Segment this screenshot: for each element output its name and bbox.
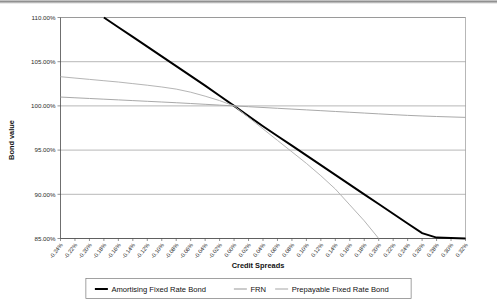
y-tick-label: 105.00%	[31, 58, 56, 65]
x-tick-label: 0.16%	[339, 242, 354, 258]
x-tick-labels: -0.24%-0.22%-0.20%-0.18%-0.16%-0.14%-0.1…	[48, 242, 469, 260]
x-tick-label: -0.14%	[121, 242, 137, 260]
y-tick-label: 100.00%	[31, 102, 56, 109]
x-tick-label: 0.22%	[382, 242, 397, 258]
chart-canvas: 85.00%90.00%95.00%100.00%105.00%110.00% …	[0, 0, 497, 304]
x-tick-label: -0.08%	[164, 242, 180, 260]
x-tick-label: 0.14%	[324, 242, 339, 258]
x-tick-label: -0.02%	[207, 242, 223, 260]
series-line	[104, 18, 466, 239]
x-tick-label: 0.20%	[368, 242, 383, 258]
x-tick-label: -0.18%	[92, 242, 108, 260]
legend-label: Amortising Fixed Rate Bond	[111, 285, 206, 294]
x-tick-label: -0.16%	[106, 242, 122, 260]
x-tick-label: 0.24%	[397, 242, 412, 258]
x-tick-label: 0.00%	[223, 242, 238, 258]
y-tick-label: 85.00%	[35, 235, 56, 242]
x-tick-label: 0.02%	[237, 242, 252, 258]
bond-value-chart: 85.00%90.00%95.00%100.00%105.00%110.00% …	[0, 0, 497, 304]
x-tick-label: 0.04%	[252, 242, 267, 258]
x-tick-label: 0.06%	[266, 242, 281, 258]
x-tick-label: 0.30%	[440, 242, 455, 258]
x-tick-label: 0.12%	[310, 242, 325, 258]
x-tick-label: 0.32%	[454, 242, 469, 258]
series-line	[61, 97, 466, 117]
x-tick-label: -0.12%	[135, 242, 151, 260]
x-tick-label: -0.06%	[178, 242, 194, 260]
y-tick-labels: 85.00%90.00%95.00%100.00%105.00%110.00%	[31, 14, 56, 242]
gridlines	[61, 18, 466, 239]
x-tick-label: -0.04%	[193, 242, 209, 260]
x-axis-title: Credit Spreads	[232, 261, 285, 270]
series-lines	[61, 18, 466, 239]
series-line	[61, 77, 379, 239]
legend-label: Prepayable Fixed Rate Bond	[292, 285, 389, 294]
x-tick-label: 0.08%	[281, 242, 296, 258]
y-tick-label: 90.00%	[35, 191, 56, 198]
legend-label: FRN	[250, 285, 266, 294]
y-tick-label: 110.00%	[32, 14, 56, 21]
x-tick-label: -0.24%	[48, 242, 64, 260]
x-tick-label: -0.22%	[63, 242, 79, 260]
x-tick-label: 0.26%	[411, 242, 426, 258]
x-tick-label: 0.10%	[295, 242, 310, 258]
x-tick-label: -0.20%	[77, 242, 93, 260]
y-tick-marks	[58, 18, 61, 239]
y-tick-label: 95.00%	[35, 146, 56, 153]
x-tick-label: 0.28%	[425, 242, 440, 258]
plot-border	[61, 18, 466, 239]
legend: Amortising Fixed Rate BondFRNPrepayable …	[86, 279, 411, 299]
x-tick-label: -0.10%	[149, 242, 165, 260]
x-tick-label: 0.18%	[353, 242, 368, 258]
y-axis-title: Bond value	[7, 120, 16, 160]
